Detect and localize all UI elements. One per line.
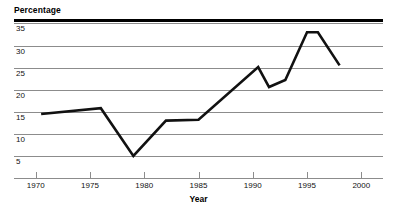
y-tick-label-35: 35 — [16, 24, 25, 33]
x-tick-label-1990: 1990 — [244, 181, 262, 190]
x-tick-1975 — [90, 172, 91, 178]
x-tick-1990 — [253, 172, 254, 178]
x-tick-label-1985: 1985 — [190, 181, 208, 190]
x-tick-label-1980: 1980 — [135, 181, 153, 190]
y-tick-label-20: 20 — [16, 91, 25, 100]
y-tick-label-30: 30 — [16, 47, 25, 56]
series-line-percentage — [14, 19, 383, 178]
y-axis-title: Percentage — [14, 5, 61, 15]
x-tick-1980 — [144, 172, 145, 178]
x-tick-1985 — [199, 172, 200, 178]
y-tick-label-5: 5 — [16, 157, 20, 166]
x-axis-line — [14, 178, 383, 179]
y-tick-label-25: 25 — [16, 69, 25, 78]
x-tick-1995 — [307, 172, 308, 178]
x-tick-label-1995: 1995 — [298, 181, 316, 190]
x-tick-label-1975: 1975 — [81, 181, 99, 190]
x-tick-label-1970: 1970 — [27, 181, 45, 190]
y-tick-label-10: 10 — [16, 135, 25, 144]
x-tick-1970 — [36, 172, 37, 178]
x-tick-2000 — [361, 172, 362, 178]
line-chart: Percentage 3530252015105 197019751980198… — [0, 0, 397, 212]
x-axis-title: Year — [0, 194, 397, 204]
x-tick-label-2000: 2000 — [352, 181, 370, 190]
plot-area — [14, 19, 383, 178]
y-tick-label-15: 15 — [16, 113, 25, 122]
